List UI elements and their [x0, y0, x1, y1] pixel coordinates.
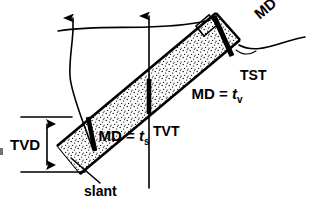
- svg-text:MD = tv: MD = tv: [154, 85, 272, 106]
- label-tvd: TVD: [10, 136, 40, 153]
- page-edge-artifact: [0, 148, 3, 155]
- ground-surface-line-right: [239, 37, 305, 49]
- ground-surface-line: [58, 20, 210, 31]
- md-slant-prefix: MD =: [99, 127, 139, 144]
- figure-root: TVD TVT TST slant MD = ts MD = tv MD = t: [0, 0, 309, 203]
- label-tst: TST: [240, 67, 267, 83]
- label-slant: slant: [84, 183, 117, 199]
- label-md-vertical: MD = tv: [154, 85, 272, 106]
- tst-leader-line: [236, 50, 256, 54]
- md-true-prefix: MD =: [251, 0, 293, 22]
- md-slant-subscript: s: [144, 136, 150, 147]
- diagram-canvas: TVD TVT TST slant MD = ts MD = tv MD = t: [0, 0, 309, 203]
- md-vertical-prefix: MD =: [192, 85, 232, 102]
- md-vertical-subscript: v: [237, 94, 243, 105]
